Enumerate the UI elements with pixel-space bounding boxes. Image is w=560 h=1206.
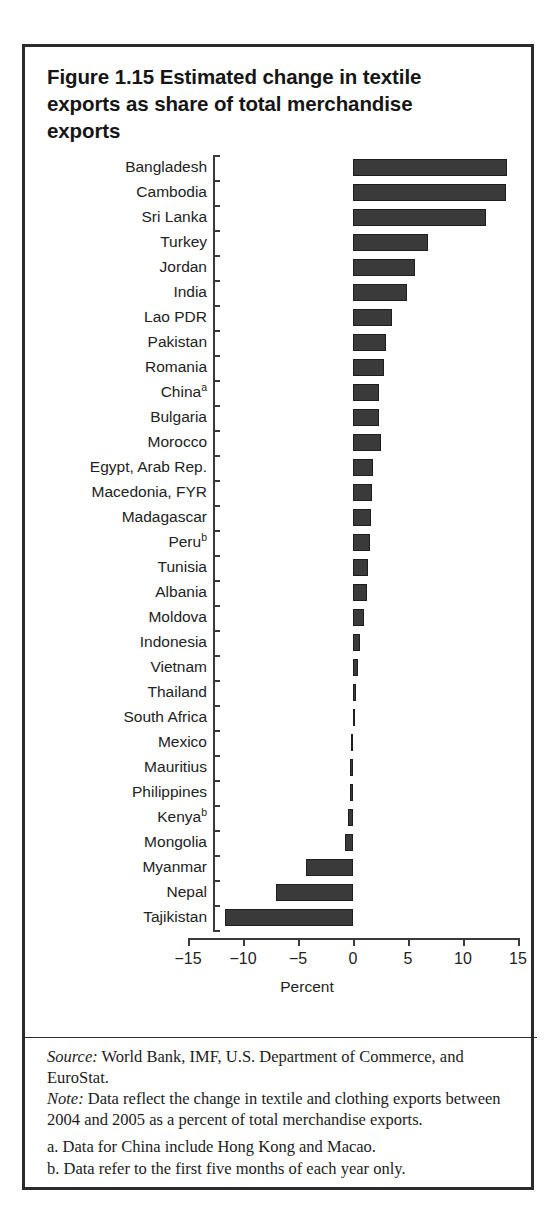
bar: [353, 434, 381, 451]
bar: [353, 309, 392, 326]
y-axis-tick: [213, 555, 220, 557]
y-axis-tick: [213, 530, 220, 532]
y-axis-tick: [213, 155, 220, 157]
y-axis-tick: [213, 180, 220, 182]
x-axis-tick-label: −5: [272, 950, 324, 968]
y-axis-tick: [213, 630, 220, 632]
bar: [353, 284, 407, 301]
bar: [353, 359, 384, 376]
y-axis-tick: [213, 505, 220, 507]
bar: [353, 484, 372, 501]
x-axis-tick: [408, 938, 410, 946]
x-axis-title-text: Percent: [280, 978, 333, 996]
bar: [353, 459, 373, 476]
source-label: Source:: [47, 1047, 98, 1066]
bar: [353, 184, 506, 201]
source-note: Source: World Bank, IMF, U.S. Department…: [47, 1047, 517, 1088]
x-axis-tick-label: −15: [162, 950, 214, 968]
y-axis-tick: [213, 655, 220, 657]
y-axis-tick: [213, 830, 220, 832]
y-axis-tick: [213, 905, 220, 907]
bar: [353, 409, 379, 426]
bar: [353, 659, 358, 676]
y-axis-tick: [213, 305, 220, 307]
bar: [306, 859, 353, 876]
bar: [353, 234, 428, 251]
y-axis-tick: [213, 780, 220, 782]
y-axis-tick: [213, 355, 220, 357]
y-axis-tick: [213, 455, 220, 457]
x-axis-tick-label: 0: [327, 950, 379, 968]
x-axis-tick: [298, 938, 300, 946]
figure-panel: Figure 1.15 Estimated change in textile …: [22, 44, 534, 1190]
y-axis-tick: [213, 405, 220, 407]
bar: [345, 834, 353, 851]
bar: [348, 809, 354, 826]
y-axis-tick: [213, 380, 220, 382]
bar: [350, 759, 353, 776]
footnote-a: a. Data for China include Hong Kong and …: [47, 1137, 517, 1158]
y-axis-tick: [213, 730, 220, 732]
y-axis-tick: [213, 230, 220, 232]
footnote-b: b. Data refer to the first five months o…: [47, 1159, 517, 1180]
x-axis-tick: [463, 938, 465, 946]
y-axis-tick: [213, 605, 220, 607]
y-axis-tick: [213, 480, 220, 482]
figure-inner: Figure 1.15 Estimated change in textile …: [25, 47, 531, 1187]
bar: [353, 684, 356, 701]
note-text: Data reflect the change in textile and c…: [47, 1089, 501, 1129]
y-axis-tick: [213, 855, 220, 857]
note-label: Note:: [47, 1089, 84, 1108]
bar: [353, 534, 370, 551]
y-axis-tick: [213, 880, 220, 882]
bar: [353, 709, 355, 726]
x-axis-tick: [353, 938, 355, 946]
footnotes: Source: World Bank, IMF, U.S. Department…: [47, 1047, 517, 1180]
x-axis-tick-label: 15: [492, 950, 544, 968]
bar: [276, 884, 353, 901]
bar-series: [25, 151, 537, 931]
bar: [353, 259, 415, 276]
y-axis-tick: [213, 330, 220, 332]
y-axis-tick: [213, 805, 220, 807]
bar: [353, 634, 360, 651]
x-axis-title: Percent: [25, 978, 537, 996]
x-axis-tick: [243, 938, 245, 946]
footer-divider: [25, 1037, 537, 1038]
bar: [353, 509, 371, 526]
bar: [225, 909, 353, 926]
bar: [353, 609, 364, 626]
y-axis-tick: [213, 705, 220, 707]
x-axis-tick: [518, 938, 520, 946]
chart-plot-area: BangladeshCambodiaSri LankaTurkeyJordanI…: [25, 151, 537, 951]
bar: [353, 159, 507, 176]
x-axis-tick: [188, 938, 190, 946]
page-title: Figure 1.15 Estimated change in textile …: [47, 63, 487, 144]
bar: [351, 734, 353, 751]
bar: [353, 559, 368, 576]
x-axis-tick-label: 5: [382, 950, 434, 968]
x-axis-tick-label: −10: [217, 950, 269, 968]
bar: [353, 584, 367, 601]
bar: [350, 784, 353, 801]
y-axis-tick: [213, 680, 220, 682]
x-axis-tick-label: 10: [437, 950, 489, 968]
data-note: Note: Data reflect the change in textile…: [47, 1089, 517, 1130]
y-axis-tick: [213, 255, 220, 257]
y-axis-tick: [213, 755, 220, 757]
y-axis-tick: [213, 930, 220, 932]
y-axis-tick: [213, 430, 220, 432]
bar: [353, 209, 486, 226]
y-axis-tick: [213, 280, 220, 282]
bar: [353, 334, 386, 351]
bar: [353, 384, 379, 401]
source-text: World Bank, IMF, U.S. Department of Comm…: [47, 1047, 464, 1087]
y-axis-tick: [213, 205, 220, 207]
y-axis-tick: [213, 580, 220, 582]
